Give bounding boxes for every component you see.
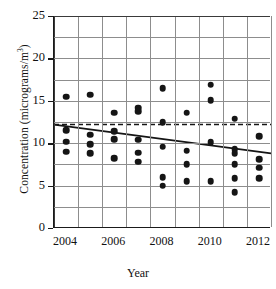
- gridline-horizontal: [54, 16, 270, 17]
- data-point: [63, 93, 70, 100]
- data-point: [256, 133, 263, 140]
- data-point: [183, 161, 190, 168]
- y-axis-tick-mark: [48, 101, 53, 102]
- data-point: [159, 182, 166, 189]
- data-point: [256, 156, 263, 163]
- x-axis-tick-label: 2006: [93, 234, 133, 249]
- y-axis-tick-mark: [48, 228, 53, 229]
- data-point: [207, 81, 214, 88]
- data-point: [207, 97, 214, 104]
- y-axis-tick-label: 5: [15, 178, 45, 193]
- y-axis-title-text: Concentration (micrograms/m: [18, 52, 30, 194]
- data-point: [232, 150, 239, 157]
- data-point: [111, 109, 118, 116]
- gridline-horizontal: [54, 37, 270, 38]
- data-point: [232, 161, 239, 168]
- data-point: [159, 174, 166, 181]
- y-axis-tick-label: 10: [15, 135, 45, 150]
- data-point: [87, 92, 94, 99]
- data-point: [159, 119, 166, 126]
- data-point: [159, 85, 166, 92]
- x-axis-tick-label: 2010: [190, 234, 230, 249]
- data-point: [232, 175, 239, 182]
- y-axis-tick-label: 0: [15, 220, 45, 235]
- gridline-horizontal: [54, 101, 270, 102]
- x-axis-tick-label: 2008: [142, 234, 182, 249]
- data-point: [232, 189, 239, 196]
- data-point: [135, 149, 142, 156]
- data-point: [135, 108, 142, 115]
- data-point: [87, 150, 94, 157]
- y-axis-title-tail: ): [18, 44, 30, 48]
- data-point: [183, 178, 190, 185]
- y-axis-tick-mark: [48, 58, 53, 59]
- data-point: [87, 131, 94, 138]
- data-point: [256, 164, 263, 171]
- data-point: [207, 178, 214, 185]
- data-point: [183, 109, 190, 116]
- x-axis-tick-label: 2004: [45, 234, 85, 249]
- data-point: [183, 148, 190, 155]
- gridline-horizontal: [54, 58, 270, 59]
- y-axis-tick-mark: [48, 143, 53, 144]
- data-point: [63, 148, 70, 155]
- plot-area: [53, 16, 270, 228]
- data-point: [87, 141, 94, 148]
- data-point: [63, 138, 70, 145]
- x-axis-title: Year: [0, 266, 276, 281]
- data-point: [256, 175, 263, 182]
- data-point: [63, 127, 70, 134]
- data-point: [111, 155, 118, 162]
- data-point: [207, 139, 214, 146]
- data-point: [135, 137, 142, 144]
- y-axis-tick-mark: [48, 186, 53, 187]
- y-axis-tick-label: 25: [15, 8, 45, 23]
- data-point: [135, 159, 142, 166]
- chart-figure: Concentration (micrograms/m3) Year 05101…: [0, 0, 276, 289]
- data-point: [111, 128, 118, 135]
- data-point: [159, 143, 166, 150]
- y-axis-tick-label: 20: [15, 50, 45, 65]
- y-axis-tick-mark: [48, 16, 53, 17]
- data-point: [232, 115, 239, 122]
- y-axis-tick-label: 15: [15, 93, 45, 108]
- x-axis-tick-label: 2012: [238, 234, 276, 249]
- gridline-horizontal: [54, 207, 270, 208]
- gridline-horizontal: [54, 80, 270, 81]
- gridline-vertical: [271, 16, 272, 227]
- data-point: [111, 136, 118, 143]
